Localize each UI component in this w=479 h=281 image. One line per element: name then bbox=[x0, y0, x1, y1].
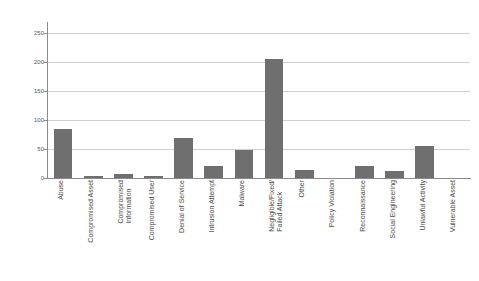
bar[interactable] bbox=[295, 170, 314, 178]
y-axis-tick-label: 150 bbox=[10, 88, 44, 94]
bar[interactable] bbox=[355, 166, 374, 178]
x-axis-tick-label-line: Information bbox=[125, 180, 133, 224]
y-axis-tick-label: 50 bbox=[10, 146, 44, 152]
x-axis-tick-label-line: Other bbox=[298, 180, 306, 198]
x-axis-tick-label: Abuse bbox=[57, 180, 65, 200]
bar[interactable] bbox=[265, 59, 284, 178]
y-axis-tick-label: 100 bbox=[10, 117, 44, 123]
x-axis-line bbox=[47, 178, 471, 179]
x-axis-tick-label: Compromised User bbox=[148, 180, 156, 240]
x-axis-tick-label: Social Engineering bbox=[389, 180, 397, 238]
x-axis-tick-label-line: Intrusion Attempt bbox=[208, 180, 216, 233]
bar-chart: 050100150200250 AbuseCompromised AssetCo… bbox=[0, 0, 479, 281]
y-axis-tick-label: 250 bbox=[10, 30, 44, 36]
x-axis-tick-label-line: Unlawful Activity bbox=[419, 180, 427, 231]
bar[interactable] bbox=[385, 171, 404, 178]
x-axis-tick-label: Malware bbox=[238, 180, 246, 206]
x-axis-tick-label: Negligible/Fixed/Failed Attack bbox=[268, 180, 284, 232]
bar[interactable] bbox=[204, 166, 223, 178]
x-axis-tick-label-line: Denial of Service bbox=[178, 180, 186, 233]
x-axis-tick-label: Compromised Asset bbox=[87, 180, 95, 243]
y-axis-tick-label: 200 bbox=[10, 59, 44, 65]
x-axis-tick-label: Denial of Service bbox=[178, 180, 186, 233]
x-axis-tick-label-line: Abuse bbox=[57, 180, 65, 200]
bar[interactable] bbox=[144, 176, 163, 178]
bar[interactable] bbox=[84, 176, 103, 178]
x-axis-tick-label-line: Negligible/Fixed/ bbox=[268, 180, 276, 232]
x-axis-tick-labels: AbuseCompromised AssetCompromisedInforma… bbox=[48, 180, 470, 280]
x-axis-tick-label-line: Vulnerable Asset bbox=[449, 180, 457, 232]
x-axis-tick-label-line: Malware bbox=[238, 180, 246, 206]
x-axis-tick-label: Policy Violation bbox=[328, 180, 336, 227]
x-axis-tick-label-line: Compromised User bbox=[148, 180, 156, 240]
x-axis-tick-label-line: Reconnaissance bbox=[359, 180, 367, 232]
x-axis-tick-label: Other bbox=[298, 180, 306, 198]
y-axis-tick-labels: 050100150200250 bbox=[0, 0, 44, 281]
bar-series bbox=[48, 24, 470, 178]
bar[interactable] bbox=[114, 174, 133, 178]
bar[interactable] bbox=[415, 146, 434, 178]
x-axis-tick-label: Reconnaissance bbox=[359, 180, 367, 232]
x-axis-tick-label-line: Social Engineering bbox=[389, 180, 397, 238]
x-axis-tick-label: CompromisedInformation bbox=[117, 180, 133, 224]
x-axis-tick-label: Vulnerable Asset bbox=[449, 180, 457, 232]
bar[interactable] bbox=[235, 150, 254, 178]
y-axis-tick-label: 0 bbox=[10, 175, 44, 181]
bar[interactable] bbox=[54, 129, 73, 178]
x-axis-tick-label: Intrusion Attempt bbox=[208, 180, 216, 233]
y-axis-tick-mark bbox=[44, 178, 48, 179]
x-axis-tick-label: Unlawful Activity bbox=[419, 180, 427, 231]
x-axis-tick-label-line: Compromised Asset bbox=[87, 180, 95, 243]
x-axis-tick-label-line: Policy Violation bbox=[328, 180, 336, 227]
x-axis-tick-label-line: Failed Attack bbox=[276, 180, 284, 232]
bar[interactable] bbox=[174, 138, 193, 178]
